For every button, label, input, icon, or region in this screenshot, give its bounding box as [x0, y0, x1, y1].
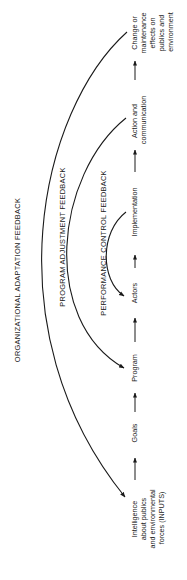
svg-text:Implementation: Implementation: [130, 187, 139, 236]
feedback-diagram: ORGANIZATIONAL ADAPTATION FEEDBACK PROGR…: [0, 0, 187, 580]
program-feedback-arc: [67, 118, 126, 368]
svg-text:Program: Program: [130, 354, 139, 382]
performance-feedback-arc: [106, 212, 126, 296]
svg-text:Action and communication: Action and communication: [130, 96, 148, 144]
node-implementation: Implementation: [130, 187, 139, 236]
node-action: Action and communication: [130, 96, 148, 144]
organizational-feedback-label: ORGANIZATIONAL ADAPTATION FEEDBACK: [13, 198, 22, 362]
node-effects: Change or maintenance effects on publics…: [130, 10, 175, 53]
node-inputs: Intelligence about publics and environme…: [130, 487, 166, 548]
node-goals: Goals: [130, 423, 139, 442]
program-feedback-label: PROGRAM ADJUSTMENT FEEDBACK: [58, 167, 67, 306]
svg-text:Goals: Goals: [130, 423, 139, 442]
organizational-feedback-arc: [42, 32, 127, 497]
node-actors: Actors: [130, 282, 139, 303]
svg-text:Intelligence about publi: Intelligence about publics and environme…: [130, 487, 166, 548]
performance-feedback-label: PERFORMANCE CONTROL FEEDBACK: [99, 170, 108, 316]
svg-text:Change or maintenance: Change or maintenance effects on publics…: [130, 10, 175, 53]
svg-text:Actors: Actors: [130, 282, 139, 303]
node-program: Program: [130, 354, 139, 382]
